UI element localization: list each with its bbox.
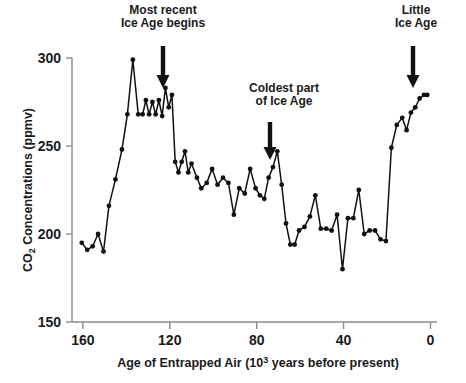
annotation-most-recent-ice-age: Most recentIce Age begins: [121, 3, 206, 88]
data-point: [85, 247, 90, 252]
annotation-line-1: Coldest part: [249, 81, 319, 95]
data-point: [313, 193, 318, 198]
data-point: [253, 186, 258, 191]
annotation-line-2: Ice Age: [395, 16, 438, 30]
data-point: [400, 115, 405, 120]
data-point: [147, 112, 152, 117]
data-point: [125, 112, 130, 117]
data-point: [266, 175, 271, 180]
data-point: [150, 100, 155, 105]
data-point: [90, 244, 95, 249]
data-point: [409, 110, 414, 115]
data-point: [226, 181, 231, 186]
data-point: [237, 186, 242, 191]
annotation-line-1: Little: [402, 3, 431, 17]
data-point: [262, 196, 267, 201]
data-point: [204, 181, 209, 186]
y-tick-label: 200: [38, 226, 62, 242]
data-point: [258, 193, 263, 198]
x-tick-label: 80: [249, 332, 265, 348]
annotation-line-2: of Ice Age: [256, 94, 313, 108]
data-point: [288, 242, 293, 247]
data-point: [373, 228, 378, 233]
data-point: [404, 128, 409, 133]
data-point: [308, 214, 313, 219]
data-point: [362, 232, 367, 237]
annotation-little-ice-age: LittleIce Age: [395, 3, 438, 88]
annotation-arrow-shaft: [411, 46, 415, 75]
data-point: [120, 147, 125, 152]
annotation-line-2: Ice Age begins: [121, 16, 206, 30]
x-tick-label: 120: [158, 332, 182, 348]
data-point: [248, 166, 253, 171]
data-point: [378, 237, 383, 242]
x-tick-label: 40: [336, 332, 352, 348]
data-point: [242, 191, 247, 196]
data-point: [113, 177, 118, 182]
svg-text:CO2 Concentrations (ppmv): CO2 Concentrations (ppmv): [21, 108, 37, 272]
data-point: [107, 203, 112, 208]
data-point: [425, 93, 430, 98]
data-point: [324, 226, 329, 231]
data-point: [335, 212, 340, 217]
data-point: [173, 159, 178, 164]
data-point: [346, 216, 351, 221]
data-point: [166, 105, 171, 110]
data-point: [179, 159, 184, 164]
y-tick-label: 300: [38, 50, 62, 66]
data-point: [130, 57, 135, 62]
annotation-label: Most recentIce Age begins: [121, 3, 206, 30]
data-point: [136, 112, 141, 117]
data-point: [183, 149, 188, 154]
y-axis-title-prefix: CO: [21, 253, 35, 272]
data-point: [189, 161, 194, 166]
data-point: [221, 175, 226, 180]
x-axis-title: Age of Entrapped Air (103 years before p…: [117, 355, 399, 370]
data-point: [79, 240, 84, 245]
annotation-line-1: Most recent: [129, 3, 196, 17]
x-axis-title-prefix: Age of Entrapped Air (10: [117, 356, 263, 370]
data-point: [394, 122, 399, 127]
data-point: [143, 98, 148, 103]
data-point: [160, 114, 165, 119]
data-point: [302, 225, 307, 230]
annotation-arrow-head: [264, 147, 277, 160]
data-point: [413, 105, 418, 110]
chart-container: 150200250300 16012080400 CO2 Concentrati…: [0, 0, 466, 383]
data-point: [351, 216, 356, 221]
y-axis-title-suffix: Concentrations (ppmv): [21, 108, 35, 248]
data-point: [279, 182, 284, 187]
data-point: [195, 175, 200, 180]
data-point: [297, 228, 302, 233]
y-axis-ticks: 150200250300: [38, 50, 72, 330]
data-point: [271, 165, 276, 170]
annotations-group: Most recentIce Age beginsColdest partof …: [121, 3, 438, 160]
data-point: [170, 93, 175, 98]
data-point: [215, 182, 220, 187]
data-point: [292, 242, 297, 247]
data-point: [367, 228, 372, 233]
x-tick-label: 160: [71, 332, 95, 348]
data-point: [231, 212, 236, 217]
annotation-label: Coldest partof Ice Age: [249, 81, 319, 108]
data-point: [340, 267, 345, 272]
annotation-coldest-part-of-ice-age: Coldest partof Ice Age: [249, 81, 319, 160]
data-point: [284, 221, 289, 226]
annotation-arrow-shaft: [268, 122, 272, 147]
data-point: [384, 239, 389, 244]
data-point: [210, 166, 215, 171]
data-point: [186, 170, 191, 175]
data-point: [176, 170, 181, 175]
data-point: [96, 232, 101, 237]
data-point: [417, 96, 422, 101]
x-axis-title-suffix: years before present): [268, 356, 399, 370]
x-tick-label: 0: [427, 332, 435, 348]
data-point: [101, 249, 106, 254]
annotation-arrow-head: [157, 75, 170, 88]
x-axis-ticks: 16012080400: [71, 322, 434, 348]
data-point: [157, 98, 162, 103]
data-point: [356, 188, 361, 193]
y-axis-title: CO2 Concentrations (ppmv): [21, 108, 37, 272]
y-tick-label: 250: [38, 138, 62, 154]
data-point: [275, 149, 280, 154]
